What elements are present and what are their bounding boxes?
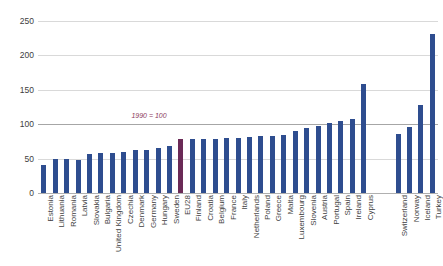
y-tick-label-0: 0 bbox=[4, 189, 34, 198]
plot-area: 1990 = 100 bbox=[38, 21, 438, 193]
bar bbox=[76, 160, 81, 193]
x-axis-label: Iceland bbox=[424, 195, 432, 221]
annotation-baseline-note: 1990 = 100 bbox=[131, 112, 166, 119]
bar bbox=[327, 123, 332, 193]
x-axis-label: Croatia bbox=[207, 195, 215, 221]
x-axis-label: Lithuania bbox=[58, 195, 66, 227]
x-axis-labels: EstoniaLithuaniaRomaniaLatviaSlovakiaBul… bbox=[38, 195, 438, 266]
x-axis-label: Czechia bbox=[127, 195, 135, 224]
x-axis-label: Denmark bbox=[138, 195, 146, 227]
x-axis-label: Italy bbox=[241, 195, 249, 210]
x-axis-label: Bulgaria bbox=[104, 195, 112, 224]
bar bbox=[293, 131, 298, 193]
bar bbox=[53, 159, 58, 193]
bar bbox=[430, 34, 435, 193]
bar bbox=[178, 139, 183, 193]
x-axis-label: EU28 bbox=[184, 195, 192, 215]
x-axis-label: Slovakia bbox=[93, 195, 101, 225]
y-tick-label-200: 200 bbox=[4, 51, 34, 60]
bar bbox=[247, 137, 252, 193]
x-axis-label: Romania bbox=[70, 195, 78, 227]
bar bbox=[396, 134, 401, 193]
x-axis-label: Austria bbox=[321, 195, 329, 220]
bar bbox=[133, 150, 138, 193]
y-tick-label-50: 50 bbox=[4, 155, 34, 164]
x-axis-label: Greece bbox=[275, 195, 283, 221]
bar bbox=[98, 153, 103, 193]
x-axis-label: Turkey bbox=[435, 195, 443, 219]
x-axis-label: Finland bbox=[195, 195, 203, 221]
bar bbox=[258, 136, 263, 193]
bar bbox=[350, 119, 355, 193]
bar bbox=[270, 136, 275, 193]
bar bbox=[167, 146, 172, 193]
x-axis-label: Cyprus bbox=[367, 195, 375, 220]
x-axis-label: Hungary bbox=[161, 195, 169, 225]
x-axis-label: Malta bbox=[287, 195, 295, 215]
x-axis-label: France bbox=[230, 195, 238, 220]
bar bbox=[361, 84, 366, 193]
gridline-0 bbox=[38, 193, 438, 194]
x-axis-label: Latvia bbox=[81, 195, 89, 216]
bar bbox=[87, 154, 92, 193]
bar bbox=[224, 138, 229, 193]
x-axis-label: Switzerland bbox=[401, 195, 409, 236]
bar bbox=[304, 128, 309, 193]
x-axis-label: Norway bbox=[413, 195, 421, 222]
bar bbox=[316, 126, 321, 193]
bar bbox=[213, 139, 218, 193]
x-axis-label: Netherlands bbox=[253, 195, 261, 238]
bar bbox=[156, 148, 161, 193]
y-tick-label-150: 150 bbox=[4, 86, 34, 95]
bar bbox=[236, 138, 241, 193]
bar bbox=[121, 152, 126, 193]
bar bbox=[201, 139, 206, 193]
bar bbox=[144, 150, 149, 193]
bar bbox=[338, 121, 343, 193]
x-axis-label: Estonia bbox=[47, 195, 55, 222]
bar bbox=[407, 127, 412, 193]
bar bbox=[190, 139, 195, 193]
x-axis-label: United Kingdom bbox=[115, 195, 123, 252]
bar bbox=[110, 153, 115, 193]
bar bbox=[64, 159, 69, 193]
bar bbox=[281, 135, 286, 193]
x-axis-label: Slovenia bbox=[310, 195, 318, 226]
bar-chart: 1990 = 100 050100150200250 EstoniaLithua… bbox=[0, 0, 443, 266]
y-tick-label-250: 250 bbox=[4, 17, 34, 26]
y-tick-label-100: 100 bbox=[4, 120, 34, 129]
bar bbox=[418, 105, 423, 193]
x-axis-label: Belgium bbox=[218, 195, 226, 224]
x-axis-label: Germany bbox=[150, 195, 158, 228]
x-axis-label: Ireland bbox=[355, 195, 363, 219]
x-axis-label: Portugal bbox=[333, 195, 341, 225]
bar bbox=[41, 165, 46, 193]
bar-series bbox=[38, 21, 438, 193]
x-axis-label: Sweden bbox=[173, 195, 181, 224]
x-axis-label: Poland bbox=[264, 195, 272, 220]
x-axis-label: Luxembourg bbox=[298, 195, 306, 239]
x-axis-label: Spain bbox=[344, 195, 352, 215]
